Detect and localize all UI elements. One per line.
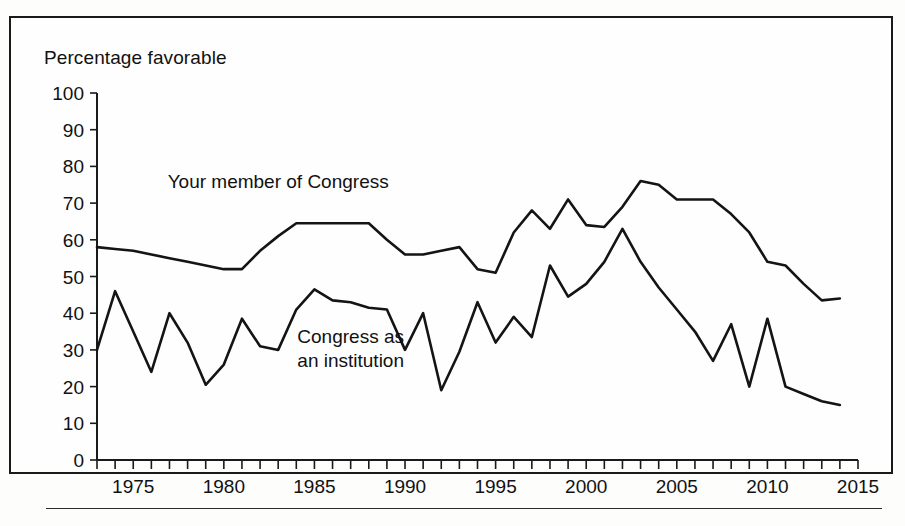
x-tick-label: 2000 [565,476,607,497]
y-tick-label: 60 [63,230,84,251]
x-tick-label: 1985 [293,476,335,497]
x-tick-label: 1980 [203,476,245,497]
y-tick-label: 0 [73,450,84,471]
x-axis: 197519801985199019952000200520102015 [97,460,879,497]
series-lines [97,181,840,405]
y-tick-label: 30 [63,340,84,361]
y-tick-label: 40 [63,303,84,324]
series-line-1 [97,229,840,405]
y-tick-label: 70 [63,193,84,214]
x-tick-label: 1975 [112,476,154,497]
annotation-your-member-of-congress: Your member of Congress [168,171,389,192]
x-tick-label: 1990 [384,476,426,497]
annotation-congress-as-an-institution: Congress asan institution [297,326,404,371]
y-tick-label: 10 [63,413,84,434]
y-tick-label: 20 [63,377,84,398]
y-axis: 0102030405060708090100 [52,83,97,471]
y-tick-label: 90 [63,120,84,141]
y-tick-label: 100 [52,83,84,104]
footer-rule [46,508,882,509]
x-tick-label: 1995 [474,476,516,497]
x-tick-label: 2010 [746,476,788,497]
x-tick-label: 2005 [656,476,698,497]
x-tick-label: 2015 [837,476,879,497]
y-tick-label: 50 [63,267,84,288]
y-tick-label: 80 [63,156,84,177]
figure-root: Percentage favorable 0102030405060708090… [0,0,905,526]
series-annotations: Your member of CongressCongress asan ins… [168,171,404,370]
line-chart-plot: 0102030405060708090100 19751980198519901… [0,0,905,526]
series-line-0 [97,181,840,300]
